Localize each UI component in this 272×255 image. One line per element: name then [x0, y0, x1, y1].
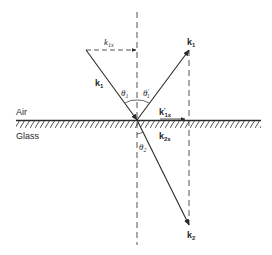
k2x-label: k2x [159, 131, 171, 142]
theta1-arc [125, 100, 137, 103]
k1-reflected-label: k1 [187, 37, 196, 48]
theta1-prime-label: θ′1 [143, 88, 150, 99]
theta1-label: θ1 [121, 88, 128, 99]
theta1-prime-arc [137, 100, 149, 103]
glass-label: Glass [16, 131, 40, 141]
theta2-label: θ2 [139, 142, 146, 153]
incident-ray [86, 50, 137, 120]
k1x-label: k1x [104, 37, 114, 48]
k2-label: k2 [187, 230, 196, 241]
k1-incident-label: k1 [95, 78, 104, 89]
theta2-arc [137, 132, 143, 134]
k1x-prime-label: k′1x [159, 107, 172, 118]
reflection-refraction-diagram: Air Glass k1x k1 k1 θ1 θ′1 k′1x k2x θ2 k… [0, 0, 272, 255]
air-label: Air [16, 107, 27, 117]
